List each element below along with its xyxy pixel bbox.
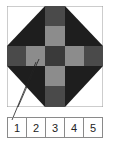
key-cell-2: 2: [27, 118, 46, 137]
key-cell-4: 4: [65, 118, 84, 137]
square-right: [84, 46, 103, 66]
square-top: [45, 6, 65, 26]
square-bottom: [45, 86, 65, 107]
quilt-block: [7, 6, 103, 107]
square-right-light: [65, 46, 84, 66]
key-cell-5: 5: [84, 118, 102, 137]
square-left: [7, 46, 26, 66]
square-lower-light: [45, 66, 65, 86]
square-upper-light: [45, 26, 65, 46]
key-cell-1: 1: [8, 118, 27, 137]
square-center: [45, 46, 65, 66]
fabric-key-table: 1 2 3 4 5: [7, 117, 103, 138]
key-cell-3: 3: [46, 118, 65, 137]
square-left-light: [26, 46, 45, 66]
